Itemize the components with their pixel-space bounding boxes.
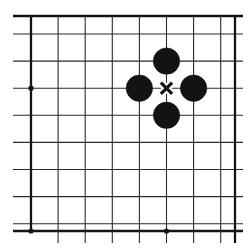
star-bottom-center-icon <box>164 228 169 233</box>
stone-south[interactable] <box>153 102 179 128</box>
mark-group <box>161 83 172 94</box>
star-bottom-left-icon <box>28 228 33 233</box>
cross-mark <box>161 83 172 94</box>
star-left-icon <box>28 86 33 91</box>
board-background <box>0 0 251 252</box>
go-board-figure <box>0 0 251 252</box>
stone-east[interactable] <box>180 75 206 101</box>
stone-north[interactable] <box>153 48 179 74</box>
go-board-svg <box>0 0 251 252</box>
stone-west[interactable] <box>126 75 152 101</box>
